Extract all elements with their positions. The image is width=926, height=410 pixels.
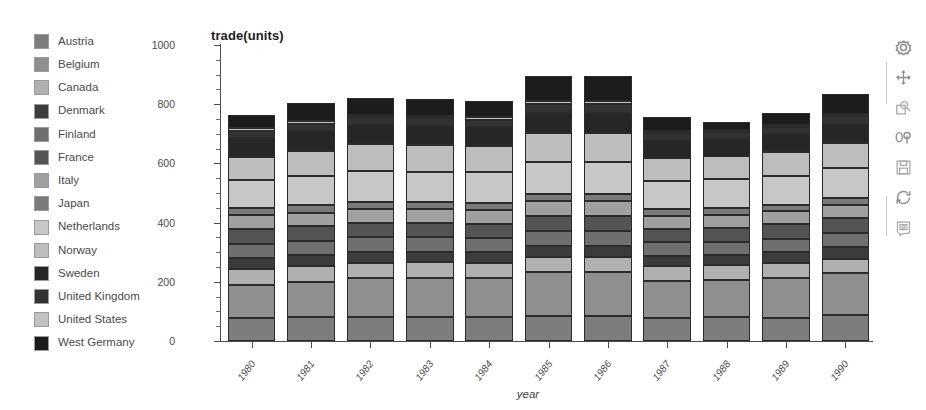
bar-segment[interactable] — [347, 223, 394, 238]
stacked-bar[interactable] — [584, 45, 631, 341]
bar-segment[interactable] — [584, 162, 631, 194]
bar-segment[interactable] — [584, 133, 631, 161]
bar-segment[interactable] — [762, 239, 809, 253]
bar-segment[interactable] — [643, 242, 690, 256]
bar-segment[interactable] — [703, 242, 750, 256]
bar-segment[interactable] — [347, 317, 394, 341]
bar-segment[interactable] — [762, 252, 809, 263]
bar-segment[interactable] — [762, 224, 809, 238]
bar-segment[interactable] — [228, 215, 275, 229]
bar-segment[interactable] — [762, 211, 809, 224]
bar-segment[interactable] — [643, 140, 690, 158]
bar-segment[interactable] — [584, 194, 631, 202]
bar-segment[interactable] — [703, 139, 750, 156]
bar-segment[interactable] — [703, 132, 750, 139]
bar-segment[interactable] — [525, 104, 572, 112]
bar-segment[interactable] — [465, 224, 512, 238]
bar-segment[interactable] — [703, 156, 750, 179]
bar-segment[interactable] — [643, 133, 690, 140]
bar-segment[interactable] — [287, 121, 334, 123]
bar-segment[interactable] — [347, 202, 394, 209]
bar-segment[interactable] — [228, 115, 275, 128]
bar-segment[interactable] — [643, 209, 690, 216]
bar-segment[interactable] — [406, 118, 453, 126]
bar-segment[interactable] — [584, 201, 631, 215]
bar-segment[interactable] — [762, 127, 809, 134]
bar-segment[interactable] — [822, 198, 869, 205]
bar-segment[interactable] — [762, 263, 809, 278]
bar-segment[interactable] — [287, 151, 334, 176]
bar-segment[interactable] — [228, 318, 275, 341]
bar-segment[interactable] — [584, 101, 631, 104]
bar-segment[interactable] — [406, 237, 453, 251]
settings-icon[interactable] — [892, 36, 914, 58]
bar-segment[interactable] — [465, 210, 512, 224]
bar-segment[interactable] — [465, 263, 512, 278]
stacked-bar[interactable] — [703, 45, 750, 341]
bar-segment[interactable] — [703, 208, 750, 215]
bar-segment[interactable] — [822, 233, 869, 247]
bar-segment[interactable] — [465, 172, 512, 203]
bar-segment[interactable] — [525, 133, 572, 161]
bar-segment[interactable] — [465, 278, 512, 318]
bar-segment[interactable] — [406, 172, 453, 202]
pan-icon[interactable] — [892, 66, 914, 88]
stacked-bar[interactable] — [406, 45, 453, 341]
zoom-icon[interactable] — [892, 96, 914, 118]
bar-segment[interactable] — [703, 280, 750, 317]
rotate-3d-icon[interactable] — [892, 126, 914, 148]
bar-segment[interactable] — [347, 144, 394, 170]
bar-segment[interactable] — [347, 115, 394, 117]
bar-segment[interactable] — [822, 273, 869, 315]
bar-segment[interactable] — [584, 316, 631, 341]
bar-segment[interactable] — [347, 209, 394, 223]
bar-segment[interactable] — [228, 138, 275, 156]
bar-segment[interactable] — [822, 247, 869, 259]
bar-segment[interactable] — [347, 98, 394, 115]
bar-segment[interactable] — [584, 76, 631, 101]
bar-segment[interactable] — [465, 101, 512, 117]
bar-segment[interactable] — [287, 255, 334, 266]
bar-segment[interactable] — [584, 246, 631, 257]
bar-segment[interactable] — [584, 216, 631, 231]
bar-segment[interactable] — [762, 134, 809, 152]
bar-segment[interactable] — [584, 231, 631, 246]
bar-segment[interactable] — [465, 252, 512, 263]
bar-segment[interactable] — [287, 131, 334, 151]
bar-segment[interactable] — [228, 269, 275, 285]
bar-segment[interactable] — [228, 208, 275, 215]
bar-segment[interactable] — [822, 168, 869, 198]
bar-segment[interactable] — [406, 262, 453, 277]
bar-segment[interactable] — [287, 124, 334, 132]
bar-segment[interactable] — [703, 317, 750, 341]
bar-segment[interactable] — [643, 181, 690, 209]
bar-segment[interactable] — [762, 278, 809, 318]
bar-segment[interactable] — [584, 257, 631, 272]
bar-segment[interactable] — [525, 231, 572, 246]
bar-segment[interactable] — [228, 157, 275, 180]
bar-segment[interactable] — [465, 120, 512, 128]
refresh-icon[interactable] — [892, 186, 914, 208]
bar-segment[interactable] — [525, 316, 572, 341]
stacked-bar[interactable] — [822, 45, 869, 341]
bar-segment[interactable] — [228, 128, 275, 130]
bar-segment[interactable] — [347, 252, 394, 263]
bar-segment[interactable] — [703, 122, 750, 130]
bar-segment[interactable] — [703, 130, 750, 132]
bar-segment[interactable] — [228, 229, 275, 244]
bar-segment[interactable] — [525, 246, 572, 257]
bar-segment[interactable] — [287, 176, 334, 206]
bar-segment[interactable] — [703, 215, 750, 228]
bar-segment[interactable] — [762, 125, 809, 127]
bar-segment[interactable] — [465, 317, 512, 341]
bar-segment[interactable] — [822, 116, 869, 124]
bar-segment[interactable] — [406, 317, 453, 341]
bar-segment[interactable] — [822, 259, 869, 273]
save-icon[interactable] — [892, 156, 914, 178]
bar-segment[interactable] — [762, 318, 809, 341]
bar-segment[interactable] — [465, 127, 512, 145]
stacked-bar[interactable] — [287, 45, 334, 341]
bar-segment[interactable] — [228, 131, 275, 139]
bar-segment[interactable] — [822, 315, 869, 341]
bar-segment[interactable] — [287, 226, 334, 241]
